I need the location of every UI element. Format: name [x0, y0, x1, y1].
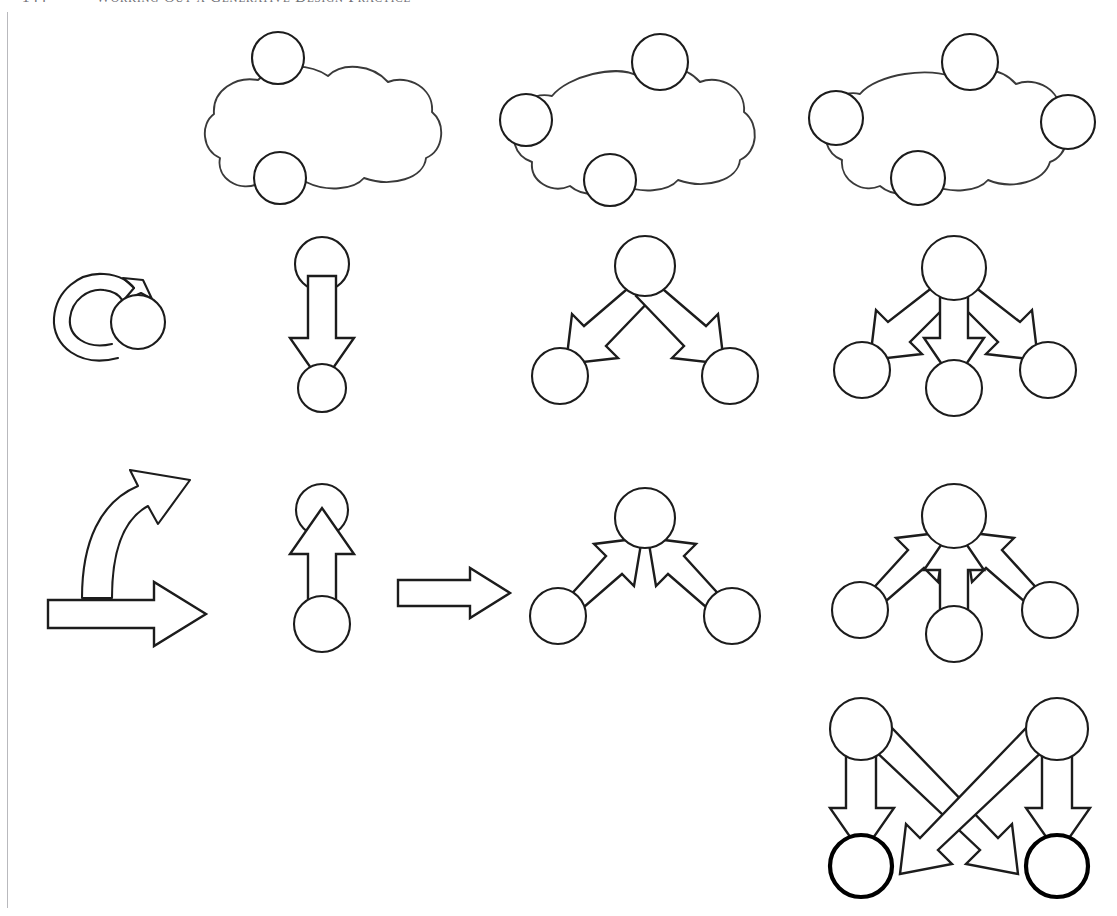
fan-out-2-svg [518, 236, 772, 408]
target-node-left [532, 348, 588, 404]
figure-branching-curved-arrow [42, 458, 214, 648]
source-node-center [926, 606, 982, 662]
fan-in-3-svg [820, 482, 1088, 662]
arrow-top-left-to-bottom-right [870, 726, 1018, 874]
curved-branch-arrow [82, 470, 190, 598]
running-head: 144 Working Out a Generative Design Prac… [0, 0, 1117, 7]
figure-one-to-two-divergence [518, 236, 772, 408]
figure-cloud-three-nodes [500, 32, 770, 208]
cloud-node-left [500, 94, 552, 146]
cloud-three-nodes-svg [500, 32, 770, 208]
cloud-outline [205, 67, 441, 192]
source-node-left [832, 582, 888, 638]
target-node-left [830, 835, 892, 897]
self-loop-svg [46, 266, 170, 370]
cloud-node-bottom [584, 154, 636, 206]
figure-three-to-one-convergence [820, 482, 1088, 662]
plain-right-arrow-svg [396, 566, 512, 620]
cloud-node-bottom [891, 151, 945, 205]
figure-plain-right-arrow [396, 566, 512, 620]
figure-two-by-two-crossing [828, 698, 1092, 900]
cloud-two-nodes-svg [196, 32, 452, 208]
cloud-outline [825, 69, 1068, 194]
figure-one-to-three-divergence [820, 236, 1088, 420]
cloud-node-top-left [252, 32, 304, 84]
fan-in-2-svg [518, 482, 772, 650]
source-node-right [1026, 698, 1088, 760]
target-node-center [926, 360, 982, 416]
target-node [615, 488, 675, 548]
cloud-node-top [632, 34, 688, 90]
target-node-right [702, 348, 758, 404]
source-node [922, 236, 986, 300]
figure-one-to-one-up [280, 482, 368, 652]
source-node-left [830, 698, 892, 760]
running-head-title: Working Out a Generative Design Practice [96, 0, 411, 6]
cloud-four-nodes-svg [812, 32, 1088, 208]
horizontal-right-arrow [48, 582, 206, 646]
right-arrow [398, 568, 510, 618]
crossing-svg [828, 698, 1092, 900]
source-node-right [704, 588, 760, 644]
self-loop-node [111, 295, 165, 349]
cloud-node-left [809, 91, 863, 145]
source-node-right [1022, 582, 1078, 638]
arrow-top-right-to-bottom-left [900, 726, 1048, 874]
figure-two-to-one-convergence [518, 482, 772, 650]
cloud-node-right [1041, 95, 1095, 149]
gutter-rule [7, 12, 8, 908]
page-folio: 144 [22, 0, 47, 6]
scanned-page: 144 Working Out a Generative Design Prac… [0, 0, 1117, 916]
fan-out-3-svg [820, 236, 1088, 420]
source-node-left [530, 588, 586, 644]
figure-self-loop [46, 266, 170, 370]
source-node [294, 596, 350, 652]
target-node-right [1026, 835, 1088, 897]
figure-one-to-one-down [280, 236, 368, 412]
one-to-one-down-svg [280, 236, 368, 412]
cloud-node-top [942, 34, 998, 90]
curved-arrow-svg [42, 458, 214, 648]
figure-cloud-two-nodes [196, 32, 452, 208]
one-to-one-up-svg [280, 482, 368, 652]
target-node [922, 484, 986, 548]
target-node-left [834, 342, 890, 398]
figure-cloud-four-nodes [812, 32, 1088, 208]
source-node [615, 236, 675, 296]
cloud-node-bottom-left [254, 152, 306, 204]
target-node [298, 364, 346, 412]
target-node-right [1020, 342, 1076, 398]
